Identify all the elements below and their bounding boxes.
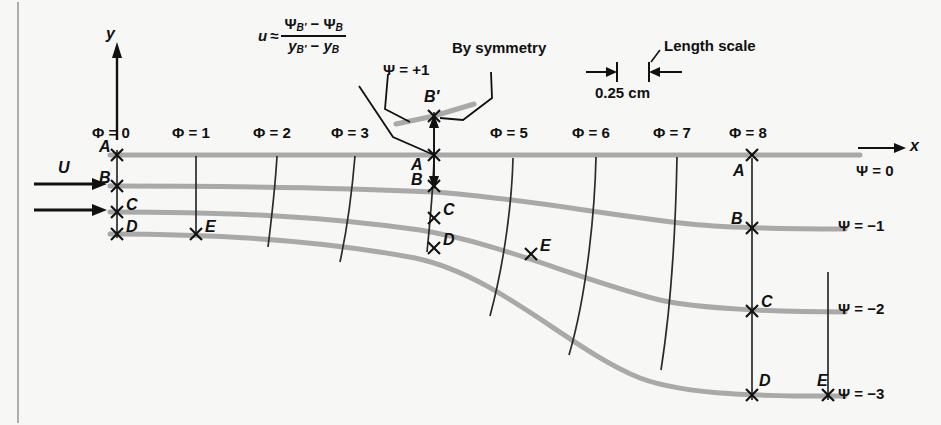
point-label-E-mid: E [540, 238, 551, 254]
length-scale-bar [586, 50, 682, 82]
equipotential-label-phi-5: Φ = 5 [490, 125, 528, 140]
equipotential-label-phi-3: Φ = 3 [331, 125, 369, 140]
length-scale-value: 0.25 cm [595, 85, 650, 100]
velocity-formula: u ≈ ΨB′ − ΨB yB′ − yB [258, 16, 346, 55]
point-label-B-mid: B [411, 172, 423, 188]
point-label-Bprime-mid: B′ [424, 89, 439, 105]
inflow-arrow-lower [34, 204, 107, 216]
equipotential-phi-2 [268, 156, 277, 247]
length-scale-title: Length scale [664, 38, 756, 53]
point-label-D-inlet: D [126, 219, 138, 235]
point-label-B-inlet: B [99, 170, 111, 186]
point-label-D-outlet: D [759, 373, 771, 389]
velocity-formula-approx: ≈ [270, 27, 281, 44]
equipotential-phi-7 [661, 157, 677, 370]
streamline-label-psi-minus-2: Ψ = −2 [838, 301, 884, 316]
equipotential-label-phi-7: Φ = 7 [653, 125, 691, 140]
point-label-C-mid: C [443, 202, 455, 218]
point-label-E-inlet: E [205, 219, 216, 235]
velocity-formula-lhs: u [258, 27, 270, 44]
point-label-E-outlet: E [817, 373, 828, 389]
inflow-velocity-label: U [58, 160, 70, 176]
equipotential-label-phi-2: Φ = 2 [253, 125, 291, 140]
equipotential-label-phi-8: Φ = 8 [729, 125, 767, 140]
x-axis-label: x [910, 138, 919, 154]
marker-cross-D-mid [428, 242, 440, 254]
psi-axis-label: Ψ = 0 [856, 163, 894, 178]
equipotential-label-phi-6: Φ = 6 [572, 125, 610, 140]
flow-net-canvas [0, 0, 941, 425]
point-label-B-outlet: B [731, 211, 743, 227]
point-label-A-outlet: A [733, 163, 745, 179]
flow-net-figure: y x Ψ = 0 U u ≈ ΨB′ − ΨB yB′ − yB Ψ = +1… [0, 0, 941, 425]
equipotential-phi-6 [569, 157, 596, 355]
velocity-formula-denominator: yB′ − yB [285, 38, 342, 56]
by-symmetry-label: By symmetry [452, 40, 546, 55]
inflow-arrow-upper [34, 178, 107, 190]
velocity-formula-numerator: ΨB′ − ΨB [281, 16, 346, 34]
streamline-group [110, 104, 860, 396]
equipotential-label-phi-1: Φ = 1 [172, 125, 210, 140]
point-label-D-mid: D [443, 232, 455, 248]
streamline-psi-minus-3 [110, 234, 845, 396]
streamline-label-psi-minus-3: Ψ = −3 [838, 386, 884, 401]
streamline-label-psi-minus-1: Ψ = −1 [838, 218, 884, 233]
x-axis-arrow [858, 143, 906, 153]
y-axis-label: y [106, 26, 115, 42]
point-label-C-inlet: C [126, 197, 138, 213]
psi-plus-1-label: Ψ = +1 [383, 62, 429, 77]
point-label-C-outlet: C [761, 294, 773, 310]
point-label-A-inlet: A [99, 139, 111, 155]
psi-plus-1-leader [385, 74, 410, 122]
